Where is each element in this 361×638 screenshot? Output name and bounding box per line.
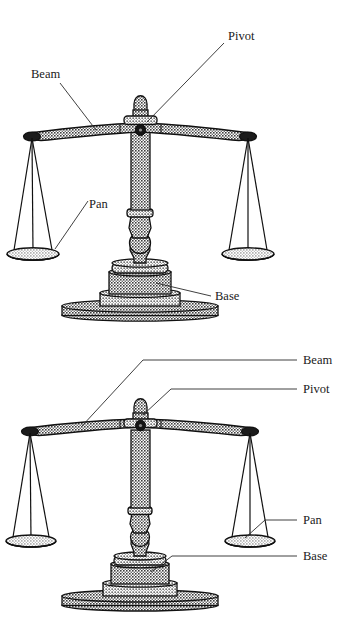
scale-shaft <box>131 430 150 508</box>
label-pan: Pan <box>89 197 109 211</box>
scale-column-lower <box>127 209 153 263</box>
label-pivot: Pivot <box>228 29 255 43</box>
scale-pan-right <box>225 433 275 547</box>
scale-base <box>62 552 218 611</box>
label-beam: Beam <box>303 353 332 367</box>
scale-column-lower <box>128 507 152 556</box>
label-beam: Beam <box>31 67 60 81</box>
scale-pan-right <box>222 138 274 260</box>
scale-base <box>62 259 218 321</box>
scale-pan-left <box>7 138 59 260</box>
label-base: Base <box>215 289 240 303</box>
leader-line-base <box>151 556 297 572</box>
label-pivot: Pivot <box>303 382 330 396</box>
label-base: Base <box>303 549 328 563</box>
scale-pan-left <box>6 433 56 547</box>
scale-pivot <box>124 399 157 431</box>
label-pan: Pan <box>303 513 323 527</box>
scale-shaft <box>131 128 150 210</box>
balance-scale-diagram-lower: Beam Pivot Pan Base <box>0 330 361 638</box>
leader-line-pan <box>55 201 88 249</box>
leader-line-beam <box>60 83 96 130</box>
leader-line-pivot <box>147 43 224 122</box>
leader-line-beam <box>82 360 297 426</box>
balance-scale-diagram-upper: Pivot Beam Pan Base <box>0 0 361 330</box>
leader-line-pivot <box>143 389 297 415</box>
diagram-page: Pivot Beam Pan Base <box>0 0 361 638</box>
